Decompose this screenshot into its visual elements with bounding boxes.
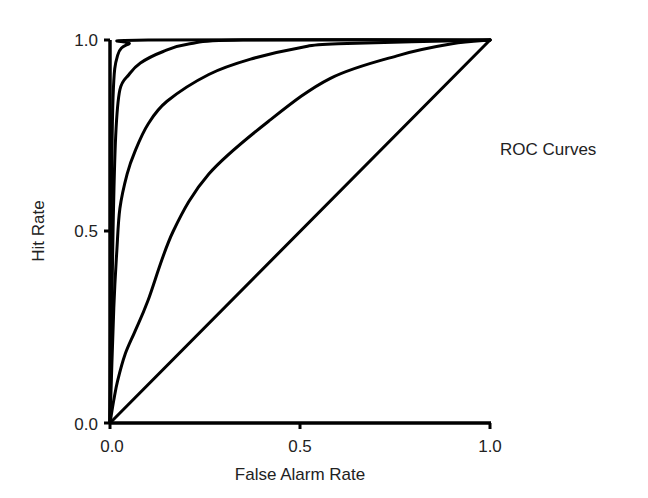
chart-annotation: ROC Curves xyxy=(500,140,596,159)
roc-chart: 1.0 0.5 0.0 Hit Rate 0.0 0.5 1.0 False A… xyxy=(0,0,648,498)
x-axis-label: False Alarm Rate xyxy=(235,465,365,484)
x-tick-label: 0.5 xyxy=(288,437,312,456)
y-tick-label: 0.0 xyxy=(74,415,98,434)
x-axis: 0.0 0.5 1.0 False Alarm Rate xyxy=(100,423,502,484)
x-tick-label: 1.0 xyxy=(478,437,502,456)
x-tick-label: 0.0 xyxy=(100,437,124,456)
y-tick-label: 0.5 xyxy=(74,222,98,241)
plot-area xyxy=(110,40,490,423)
y-axis-label: Hit Rate xyxy=(29,200,48,261)
y-axis: 1.0 0.5 0.0 Hit Rate xyxy=(29,31,110,434)
y-tick-label: 1.0 xyxy=(74,31,98,50)
